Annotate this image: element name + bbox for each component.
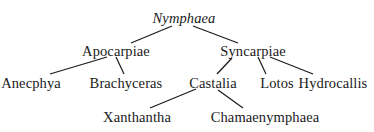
edge-castalia-chamaenymphaea (218, 90, 243, 108)
edge-syncarpiae-castalia (217, 58, 232, 74)
node-nymphaea: Nymphaea (153, 11, 216, 26)
node-lotos: Lotos (260, 76, 294, 91)
node-hydrocallis: Hydrocallis (299, 76, 368, 91)
edge-nymphaea-apocarpiae (131, 26, 172, 43)
edge-syncarpiae-hydrocallis (270, 57, 313, 74)
node-apocarpiae: Apocarpiae (82, 44, 150, 59)
edge-castalia-xanthantha (150, 89, 196, 108)
node-brachyceras: Brachyceras (90, 76, 163, 91)
node-chamaenymphaea: Chamaenymphaea (211, 110, 320, 125)
edge-syncarpiae-lotos (258, 57, 266, 74)
node-castalia: Castalia (189, 76, 237, 91)
edge-apocarpiae-brachyceras (116, 57, 124, 74)
node-xanthantha: Xanthantha (103, 110, 171, 125)
edge-apocarpiae-anecphya (50, 57, 107, 74)
node-syncarpiae: Syncarpiae (220, 44, 285, 59)
edge-nymphaea-syncarpiae (193, 26, 238, 43)
node-anecphya: Anecphya (1, 76, 61, 91)
